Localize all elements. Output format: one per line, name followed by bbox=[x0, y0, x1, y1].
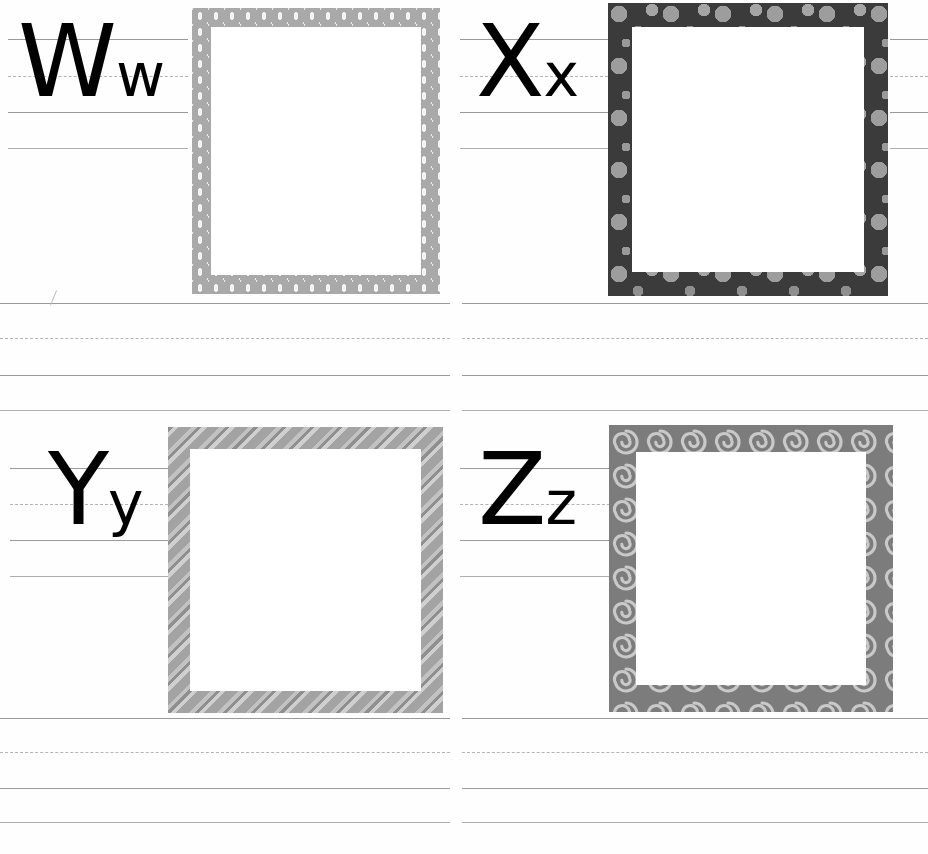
frame-mat-area-w[interactable] bbox=[211, 27, 421, 275]
picture-frame-diagonal-stripe[interactable] bbox=[168, 427, 443, 713]
rule-band1-base-stub bbox=[890, 112, 928, 113]
frame-mat-area-y[interactable] bbox=[190, 449, 421, 691]
rule-band4-base-right bbox=[462, 788, 928, 789]
letter-lower-w: w bbox=[116, 40, 164, 110]
letter-pair-z: Zz bbox=[478, 440, 576, 540]
rule-band3-descender-right bbox=[460, 576, 610, 577]
rule-band2-descender-left bbox=[0, 410, 450, 411]
worksheet-page: Ww Xx Yy Zz bbox=[0, 0, 928, 854]
letter-pair-y: Yy bbox=[48, 440, 143, 540]
rule-band4-descender-left bbox=[0, 822, 450, 823]
rule-band4-top-right bbox=[462, 718, 928, 719]
rule-band2-top-left bbox=[0, 303, 450, 304]
letter-upper-x: X bbox=[476, 3, 544, 120]
letter-pair-x: Xx bbox=[476, 12, 578, 112]
letter-lower-z: z bbox=[546, 468, 577, 538]
frame-mat-area-z[interactable] bbox=[636, 452, 866, 685]
rule-band1-mid-stub bbox=[890, 76, 928, 77]
rule-band3-descender-left bbox=[10, 576, 168, 577]
frame-mat-area-x[interactable] bbox=[632, 27, 864, 272]
picture-frame-swirl[interactable] bbox=[609, 425, 893, 712]
picture-frame-diamond[interactable] bbox=[192, 8, 440, 294]
picture-frame-polka-dot[interactable] bbox=[608, 3, 888, 296]
rule-band4-mid-left bbox=[0, 752, 450, 753]
rule-band1-top-stub bbox=[890, 39, 928, 40]
rule-band4-descender-right bbox=[462, 822, 928, 823]
rule-band1-descender-stub bbox=[890, 148, 928, 149]
rule-band4-base-left bbox=[0, 788, 450, 789]
rule-band2-descender-right bbox=[462, 410, 928, 411]
rule-band2-mid-right bbox=[462, 338, 928, 339]
rule-band4-mid-right bbox=[462, 752, 928, 753]
letter-lower-y: y bbox=[108, 468, 143, 538]
letter-upper-w: W bbox=[18, 3, 116, 120]
letter-lower-x: x bbox=[544, 40, 579, 110]
rule-band2-base-left bbox=[0, 375, 450, 376]
rule-band1-descender-right bbox=[460, 148, 608, 149]
rule-band1-descender-left bbox=[8, 148, 188, 149]
letter-upper-z: Z bbox=[478, 431, 546, 548]
letter-pair-w: Ww bbox=[18, 12, 164, 112]
letter-upper-y: Y bbox=[48, 431, 108, 548]
rule-band2-top-right bbox=[462, 303, 928, 304]
rule-band2-base-right bbox=[462, 375, 928, 376]
rule-band2-mid-left bbox=[0, 338, 450, 339]
rule-band4-top-left bbox=[0, 718, 450, 719]
